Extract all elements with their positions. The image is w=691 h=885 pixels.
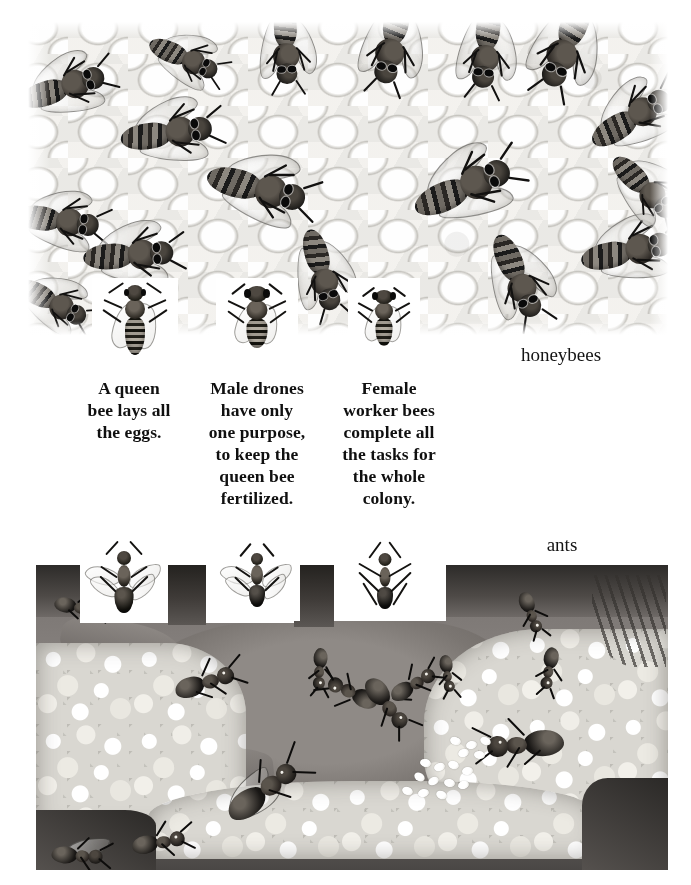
ant-egg: [419, 758, 432, 768]
ant-egg: [457, 780, 470, 790]
soil-pillar: [294, 565, 334, 627]
worker-bee-inset: [348, 278, 420, 360]
queen-bee-inset: [92, 278, 178, 360]
ant-egg: [413, 771, 427, 783]
queen-bee-specimen: [109, 281, 161, 357]
ant-egg: [417, 788, 429, 798]
honeybees-label: honeybees: [497, 344, 625, 366]
ant-egg: [461, 766, 473, 775]
ant-egg: [427, 775, 440, 787]
ant-egg: [433, 761, 446, 772]
ant-egg: [447, 759, 460, 771]
winged-ant: [50, 831, 127, 870]
wingless-worker-ant-specimen: [359, 551, 411, 613]
drone-bee-inset: [216, 278, 298, 360]
drone-bee-caption: Male drones have only one purpose, to ke…: [196, 377, 318, 509]
queen-bee-caption: A queen bee lays all the eggs.: [66, 377, 192, 443]
winged-male-ant-specimen: [222, 551, 292, 615]
worker-ant-inset: [348, 545, 422, 619]
honeybee: [82, 234, 182, 277]
page-root: honeybees A queen bee lays all the eggs.…: [0, 0, 691, 885]
ant-egg: [443, 778, 455, 788]
ant-egg: [479, 735, 492, 747]
ant-egg-pile: [388, 737, 508, 799]
winged-queen-ant-specimen: [87, 549, 161, 619]
ants-label: ants: [498, 534, 626, 556]
worker-bee-specimen: [363, 288, 405, 350]
drone-bee-specimen: [233, 284, 281, 354]
ant-egg: [457, 747, 470, 759]
ant-egg: [401, 785, 414, 796]
ant-egg: [449, 735, 462, 746]
honeybee: [268, 22, 303, 91]
winged-male-ant-inset: [214, 545, 300, 621]
ant-egg: [473, 750, 485, 759]
dark-soil-corner: [582, 778, 668, 870]
winged-queen-ant-inset: [80, 545, 168, 623]
soil-pillar: [168, 565, 206, 625]
worker-bee-caption: Female worker bees complete all the task…: [328, 377, 450, 509]
